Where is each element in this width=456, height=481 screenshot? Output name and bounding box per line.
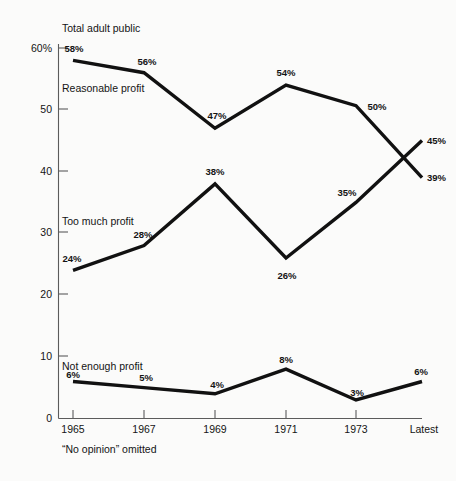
y-axis-tick-labels: 60% 50 40 30 20 10 0 bbox=[31, 42, 52, 424]
x-tick-label-1965: 1965 bbox=[61, 423, 85, 435]
point-labels-reasonable-profit: 58% 56% 47% 54% 50% 39% bbox=[64, 43, 446, 183]
point-label-toomuch-latest: 45% bbox=[427, 135, 447, 146]
y-tick-label-0: 0 bbox=[46, 412, 52, 424]
series-line-too-much-profit bbox=[73, 141, 422, 271]
y-tick-label-30: 30 bbox=[40, 226, 52, 238]
series-label-reasonable-profit: Reasonable profit bbox=[62, 82, 144, 94]
chart-footnote: “No opinion” omitted bbox=[62, 443, 157, 455]
point-label-notenough-1967: 5% bbox=[139, 372, 153, 383]
series-label-too-much-profit: Too much profit bbox=[62, 215, 134, 227]
line-chart: 60% 50 40 30 20 10 0 1965 1967 1969 1971… bbox=[0, 0, 456, 481]
point-label-toomuch-1973: 35% bbox=[337, 187, 357, 198]
y-tick-label-10: 10 bbox=[40, 350, 52, 362]
point-label-notenough-1965: 6% bbox=[66, 369, 80, 380]
point-label-toomuch-1971: 26% bbox=[277, 270, 297, 281]
point-label-notenough-1973: 3% bbox=[350, 387, 364, 398]
point-label-toomuch-1965: 24% bbox=[62, 253, 82, 264]
x-tick-label-1969: 1969 bbox=[203, 423, 227, 435]
point-labels-too-much-profit: 24% 28% 38% 26% 35% 45% bbox=[62, 135, 446, 281]
point-label-reasonable-1965: 58% bbox=[64, 43, 84, 54]
point-label-reasonable-latest: 39% bbox=[427, 172, 447, 183]
x-axis-tick-labels: 1965 1967 1969 1971 1973 Latest bbox=[61, 423, 438, 435]
point-label-reasonable-1973: 50% bbox=[367, 101, 387, 112]
point-label-toomuch-1967: 28% bbox=[133, 229, 153, 240]
x-tick-label-1971: 1971 bbox=[274, 423, 298, 435]
series-line-reasonable-profit bbox=[73, 60, 422, 177]
x-tick-label-latest: Latest bbox=[410, 423, 439, 435]
point-label-notenough-1969: 4% bbox=[210, 379, 224, 390]
point-label-reasonable-1971: 54% bbox=[276, 67, 296, 78]
y-tick-label-40: 40 bbox=[40, 165, 52, 177]
point-label-notenough-1971: 8% bbox=[279, 354, 293, 365]
x-tick-label-1973: 1973 bbox=[344, 423, 368, 435]
chart-figure: 60% 50 40 30 20 10 0 1965 1967 1969 1971… bbox=[0, 0, 456, 481]
y-tick-label-60: 60% bbox=[31, 42, 52, 54]
series-line-not-enough-profit bbox=[73, 369, 422, 400]
point-label-toomuch-1969: 38% bbox=[205, 166, 225, 177]
chart-title: Total adult public bbox=[62, 22, 140, 34]
point-label-reasonable-1967: 56% bbox=[137, 56, 157, 67]
point-label-reasonable-1969: 47% bbox=[207, 110, 227, 121]
x-tick-label-1967: 1967 bbox=[132, 423, 156, 435]
point-label-notenough-latest: 6% bbox=[414, 366, 428, 377]
y-tick-label-20: 20 bbox=[40, 288, 52, 300]
y-tick-label-50: 50 bbox=[40, 103, 52, 115]
